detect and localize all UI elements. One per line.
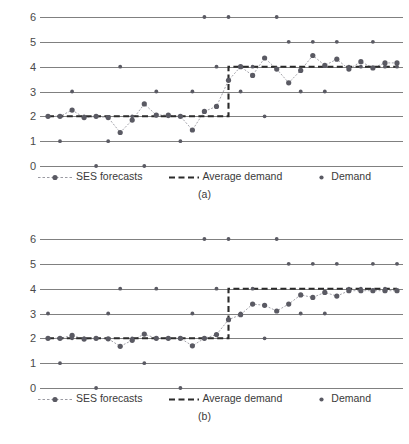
legend-label-ses-a: SES forecasts [76, 170, 143, 182]
demand-point [179, 139, 183, 143]
ses-forecast-point [370, 65, 375, 70]
demand-point [142, 361, 146, 365]
legend-label-average-a: Average demand [203, 170, 283, 182]
demand-point [311, 40, 315, 44]
demand-point [251, 287, 255, 291]
chart-panel-a: 0123456 SES forecasts Average demand Dem… [0, 0, 409, 222]
legend-label-demand-a: Demand [331, 170, 371, 182]
ses-forecast-point [82, 115, 87, 120]
ses-line-marker-icon [38, 172, 72, 181]
series-layer-a [0, 0, 409, 165]
demand-point [203, 237, 207, 241]
demand-point [335, 262, 339, 266]
ses-forecast-point [94, 336, 99, 341]
ses-forecast-point [238, 312, 243, 317]
demand-point [371, 40, 375, 44]
average-demand-line [48, 67, 397, 117]
legend-label-demand-b: Demand [331, 392, 371, 404]
demand-point [299, 90, 303, 94]
ses-forecast-point [214, 104, 219, 109]
demand-point [323, 90, 327, 94]
ses-forecast-point [334, 57, 339, 62]
ses-forecast-point [322, 63, 327, 68]
average-demand-line [48, 289, 397, 339]
ses-forecast-point [106, 336, 111, 341]
demand-point [46, 312, 50, 316]
legend-label-average-b: Average demand [203, 392, 283, 404]
ses-forecast-point [142, 332, 147, 337]
demand-point [359, 65, 363, 69]
demand-point [203, 15, 207, 19]
demand-point [215, 287, 219, 291]
ses-forecast-point [250, 302, 255, 307]
dot-marker-icon [316, 394, 327, 403]
ses-forecast-point [57, 336, 62, 341]
caption-b: (b) [0, 410, 409, 422]
ses-forecast-point [166, 113, 171, 118]
ses-line-marker-icon [38, 394, 72, 403]
demand-point [70, 90, 74, 94]
ses-forecast-point [190, 127, 195, 132]
demand-point [227, 15, 231, 19]
demand-point [395, 262, 399, 266]
demand-point [299, 312, 303, 316]
ses-forecast-point [370, 288, 375, 293]
ses-forecast-point [226, 78, 231, 83]
demand-point [118, 65, 122, 69]
demand-point [239, 90, 243, 94]
ses-forecast-point [202, 109, 207, 114]
ses-forecast-point [70, 333, 75, 338]
demand-point [263, 336, 267, 340]
ses-forecast-point [286, 80, 291, 85]
legend-item-ses-b: SES forecasts [38, 392, 143, 404]
ses-forecast-point [346, 288, 351, 293]
ses-forecast-point [322, 290, 327, 295]
ses-forecast-point [262, 303, 267, 308]
demand-point [58, 361, 62, 365]
ses-forecast-point [130, 338, 135, 343]
ses-forecast-point [382, 288, 387, 293]
ses-forecast-point [382, 60, 387, 65]
demand-point [335, 40, 339, 44]
dot-marker-icon [316, 172, 327, 181]
ses-forecast-point [394, 288, 399, 293]
plot-area-b: 0123456 [0, 222, 409, 387]
demand-point [275, 15, 279, 19]
ses-forecast-point [214, 332, 219, 337]
demand-point [191, 90, 195, 94]
demand-point [215, 65, 219, 69]
ses-forecast-point [45, 336, 50, 341]
demand-point [323, 312, 327, 316]
ses-forecast-point [250, 73, 255, 78]
ses-forecast-point [154, 113, 159, 118]
ses-forecast-point [358, 288, 363, 293]
ses-forecast-point [274, 308, 279, 313]
ses-forecast-point [130, 118, 135, 123]
demand-point [287, 262, 291, 266]
ses-forecast-line [48, 56, 397, 133]
legend-b: SES forecasts Average demand Demand [0, 390, 409, 406]
demand-point [263, 114, 267, 118]
ses-forecast-point [106, 115, 111, 120]
ses-forecast-point [298, 68, 303, 73]
ses-forecast-point [346, 67, 351, 72]
ses-forecast-point [334, 294, 339, 299]
ses-forecast-point [178, 114, 183, 119]
ses-forecast-point [202, 336, 207, 341]
ses-forecast-point [70, 108, 75, 113]
demand-point [251, 65, 255, 69]
ses-forecast-point [154, 336, 159, 341]
ses-forecast-point [94, 114, 99, 119]
ses-forecast-point [190, 343, 195, 348]
demand-point [311, 262, 315, 266]
dashed-line-icon [169, 172, 199, 181]
ses-forecast-point [142, 101, 147, 106]
legend-item-average-b: Average demand [169, 392, 283, 404]
ses-forecast-point [45, 114, 50, 119]
ses-forecast-point [394, 60, 399, 65]
ses-forecast-point [82, 337, 87, 342]
legend-a: SES forecasts Average demand Demand [0, 168, 409, 184]
ses-forecast-point [358, 59, 363, 64]
ses-forecast-point [226, 317, 231, 322]
demand-point [106, 312, 110, 316]
